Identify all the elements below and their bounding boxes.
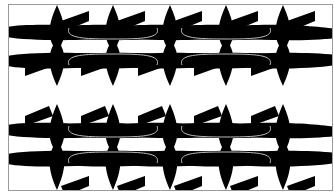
tessellation-canvas — [0, 0, 334, 195]
